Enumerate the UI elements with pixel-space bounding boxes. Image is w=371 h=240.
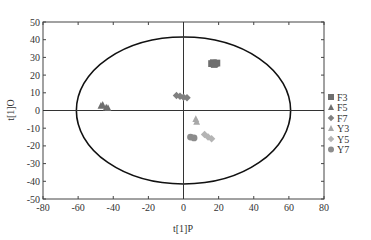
y-tick-label: -10 [27, 123, 40, 134]
y-axis-title: t[1]O [5, 99, 16, 121]
y-tick-label: -50 [27, 194, 40, 205]
y-tick-label: 10 [30, 87, 40, 98]
legend-marker-f7-icon [328, 115, 335, 122]
legend-marker-f3-icon [328, 94, 334, 100]
x-tick-label: 40 [249, 202, 259, 213]
x-tick-label: 0 [181, 202, 186, 213]
x-tick-label: -20 [142, 202, 155, 213]
y-tick-label: 40 [30, 34, 40, 45]
x-tick-label: -60 [71, 202, 84, 213]
legend-label-f5: F5 [337, 102, 348, 113]
legend-label-f3: F3 [337, 92, 348, 103]
y-tick-label: 30 [30, 52, 40, 63]
zero-lines [43, 22, 324, 199]
y-tick-label: 50 [30, 17, 40, 28]
x-tick-label: -40 [107, 202, 120, 213]
y-tick-label: 0 [35, 105, 40, 116]
point-f3 [211, 61, 218, 68]
legend-marker-f5-icon [328, 104, 334, 110]
legend-label-y3: Y3 [337, 123, 349, 134]
pca-score-plot: -80-60-40-20020406080-50-40-30-20-100102… [0, 0, 371, 240]
y-tick-label: -40 [27, 176, 40, 187]
data-points [98, 59, 221, 142]
legend-label-y5: Y5 [337, 134, 349, 145]
legend-marker-y3-icon [328, 125, 334, 131]
y-tick-label: 20 [30, 70, 40, 81]
y-tick-label: -30 [27, 158, 40, 169]
legend-label-y7: Y7 [337, 144, 349, 155]
x-tick-label: 60 [284, 202, 294, 213]
legend-label-f7: F7 [337, 113, 348, 124]
x-axis-title: t[1]P [173, 223, 193, 234]
y-tick-label: -20 [27, 140, 40, 151]
legend-marker-y7-icon [328, 147, 334, 153]
legend-marker-y5-icon [328, 136, 335, 143]
x-tick-label: 20 [214, 202, 224, 213]
x-tick-label: 80 [319, 202, 329, 213]
legend: F3F5F7Y3Y5Y7 [328, 92, 350, 156]
point-y7 [191, 135, 198, 142]
